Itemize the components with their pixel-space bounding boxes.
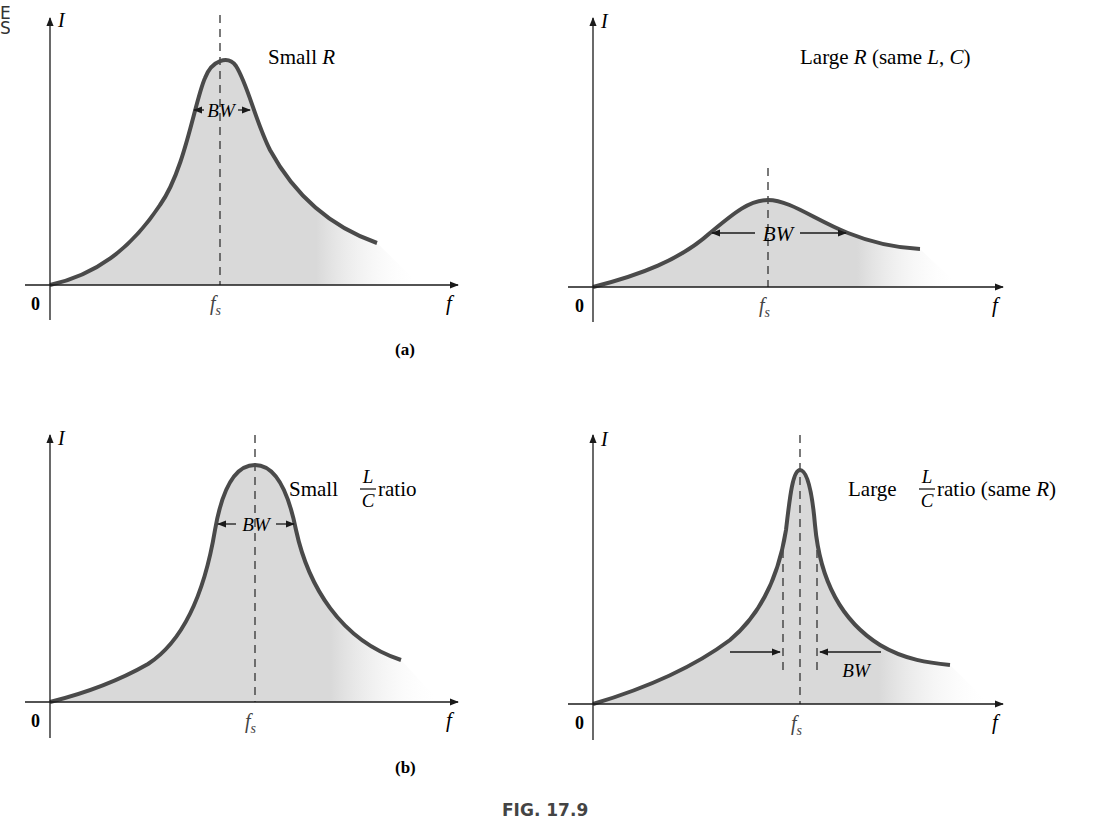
fs-label: fs: [759, 294, 771, 320]
bw-label: BW: [242, 514, 272, 535]
x-axis-label: f: [446, 291, 455, 315]
x-axis-label: f: [992, 293, 1001, 317]
figure-caption: FIG. 17.9: [502, 800, 588, 820]
origin-label: 0: [575, 296, 584, 316]
origin-label: 0: [31, 711, 40, 731]
origin-label: 0: [575, 713, 584, 733]
fs-label: fs: [791, 712, 803, 738]
y-axis-label: I: [600, 428, 609, 450]
svg-text:Large: Large: [848, 477, 897, 501]
plot-large-lc-ratio: BW I f 0 fs Large L C ratio (same R): [568, 428, 1056, 740]
plot-small-r: BW I f 0 fs Small R: [25, 9, 458, 320]
y-axis-label: I: [57, 9, 66, 31]
resonance-curves-figure: BW I f 0 fs Small R BW I f 0 fs Large R …: [0, 0, 1103, 823]
fraction-numerator: L: [921, 466, 933, 487]
svg-text:ratio (same R): ratio (same R): [937, 477, 1056, 501]
part-label-b: (b): [395, 758, 416, 777]
svg-text:ratio: ratio: [378, 477, 416, 501]
x-axis-label: f: [992, 710, 1001, 734]
bw-label: BW: [207, 100, 237, 121]
fraction-numerator: L: [362, 466, 374, 487]
y-axis-label: I: [600, 10, 609, 32]
part-label-a: (a): [395, 340, 415, 359]
fraction-denominator: C: [921, 490, 934, 511]
area-fill: [50, 60, 420, 285]
plot-small-lc-ratio: BW I f 0 fs Small L C ratio: [25, 427, 458, 738]
x-axis-label: f: [446, 708, 455, 732]
plot-title: Large R (same L, C): [800, 45, 971, 69]
bw-label: BW: [842, 660, 872, 681]
fs-label: fs: [245, 710, 257, 736]
svg-text:Small: Small: [289, 477, 338, 501]
plot-large-r: BW I f 0 fs Large R (same L, C): [568, 10, 1003, 322]
origin-label: 0: [31, 294, 40, 314]
plot-title: Small R: [268, 45, 335, 69]
bw-label: BW: [763, 222, 796, 246]
fraction-denominator: C: [362, 490, 375, 511]
plot-title: Large L C ratio (same R): [848, 466, 1056, 511]
y-axis-label: I: [57, 427, 66, 449]
fs-label: fs: [210, 292, 222, 318]
plot-title: Small L C ratio: [289, 466, 416, 511]
